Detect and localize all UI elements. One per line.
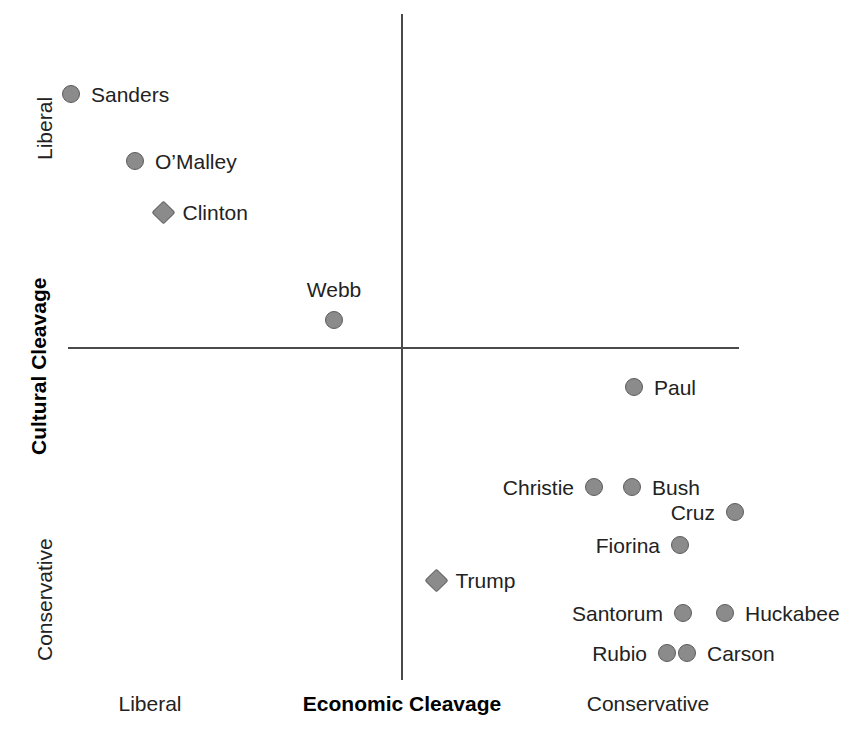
data-point-santorum-marker (674, 604, 692, 622)
y-tick-conservative: Conservative (34, 538, 55, 661)
data-point-rubio-label: Rubio (592, 643, 647, 664)
data-point-carson-label: Carson (707, 643, 775, 664)
political-cleavage-scatter-plot: Economic Cleavage Cultural Cleavage Libe… (0, 0, 860, 739)
data-point-christie-label: Christie (503, 477, 574, 498)
data-point-rubio-marker (658, 644, 676, 662)
data-point-huckabee-label: Huckabee (745, 603, 840, 624)
data-point-huckabee-marker (716, 604, 734, 622)
data-point-trump-label: Trump (456, 570, 516, 591)
data-point-omalley-marker (126, 152, 144, 170)
data-point-clinton-label: Clinton (183, 202, 248, 223)
horizontal-axis-line (68, 347, 739, 349)
data-point-bush-label: Bush (652, 477, 700, 498)
data-point-fiorina-label: Fiorina (596, 535, 660, 556)
data-point-paul-label: Paul (654, 377, 696, 398)
data-point-cruz-marker (726, 503, 744, 521)
x-axis-title: Economic Cleavage (303, 693, 501, 714)
data-point-cruz-label: Cruz (671, 502, 715, 523)
data-point-webb-marker (325, 311, 343, 329)
y-tick-liberal: Liberal (34, 97, 55, 160)
data-point-sanders-marker (62, 85, 80, 103)
data-point-bush-marker (623, 478, 641, 496)
data-point-santorum-label: Santorum (572, 603, 663, 624)
data-point-webb-label: Webb (307, 279, 361, 300)
data-point-sanders-label: Sanders (91, 84, 169, 105)
data-point-trump-marker (424, 568, 448, 592)
data-point-christie-marker (585, 478, 603, 496)
data-point-fiorina-marker (671, 536, 689, 554)
data-point-clinton-marker (151, 200, 175, 224)
data-point-omalley-label: O’Malley (155, 151, 237, 172)
data-point-paul-marker (625, 378, 643, 396)
data-point-carson-marker (678, 644, 696, 662)
y-axis-title: Cultural Cleavage (28, 278, 49, 455)
x-tick-conservative: Conservative (587, 693, 710, 714)
x-tick-liberal: Liberal (118, 693, 181, 714)
